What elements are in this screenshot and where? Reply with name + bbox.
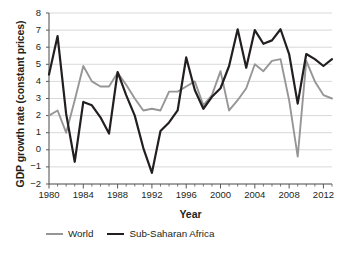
y-tick-label: 8 [15, 8, 41, 18]
legend-label-sub-saharan-africa: Sub-Saharan Africa [129, 228, 214, 239]
y-tick-label: 1 [15, 127, 41, 137]
legend-swatch-sub-saharan-africa [107, 233, 124, 235]
legend-item-sub-saharan-africa: Sub-Saharan Africa [107, 228, 214, 239]
y-tick-label: −2 [15, 179, 41, 189]
y-tick-label: 4 [15, 76, 41, 86]
x-axis-title: Year [49, 208, 332, 220]
legend-label-world: World [68, 228, 93, 239]
y-tick-label: 6 [15, 42, 41, 52]
y-tick-label: 7 [15, 25, 41, 35]
y-tick-label: 0 [15, 144, 41, 154]
y-tick-label: 2 [15, 110, 41, 120]
y-tick-label: −1 [15, 161, 41, 171]
y-tick-label: 5 [15, 59, 41, 69]
gdp-growth-rate-chart: GDP growth rate (constant prices) Year W… [0, 0, 344, 260]
y-tick-label: 3 [15, 93, 41, 103]
x-tick-label: 2012 [303, 190, 343, 200]
legend-item-world: World [46, 228, 93, 239]
legend-swatch-world [46, 233, 63, 235]
plot-area [0, 0, 344, 212]
chart-legend: World Sub-Saharan Africa [46, 228, 214, 239]
